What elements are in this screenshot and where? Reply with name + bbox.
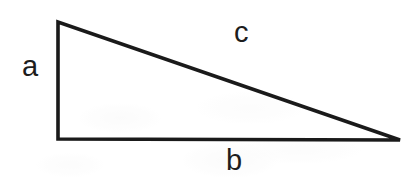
label-side-c: c xyxy=(234,18,249,47)
triangle-diagram-canvas: a c b xyxy=(0,0,415,181)
triangle-outline xyxy=(58,22,400,140)
label-side-b: b xyxy=(226,146,242,175)
right-triangle-shape xyxy=(0,0,415,181)
label-side-a: a xyxy=(22,52,38,81)
